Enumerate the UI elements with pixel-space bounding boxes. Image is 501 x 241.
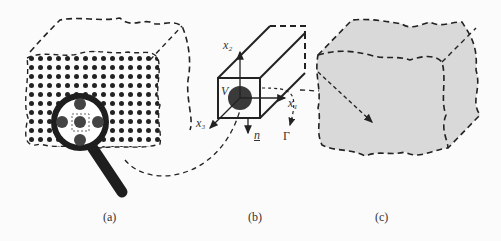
volume-label: V (221, 84, 228, 99)
panel-c-body (317, 19, 480, 156)
boundary-label: Γ (283, 129, 290, 144)
caption-c: (c) (375, 210, 388, 225)
panel-a-body (26, 18, 191, 148)
caption-a: (a) (103, 210, 116, 225)
x1-label: x₁ (288, 96, 298, 111)
normal-label: n (254, 128, 260, 143)
caption-b: (b) (248, 210, 262, 225)
x3-label: x₃ (196, 116, 206, 131)
multiscale-figure: x₂ x₁ x₃ V n Γ (a) (b) (c) (0, 0, 501, 241)
x2-label: x₂ (223, 38, 233, 53)
